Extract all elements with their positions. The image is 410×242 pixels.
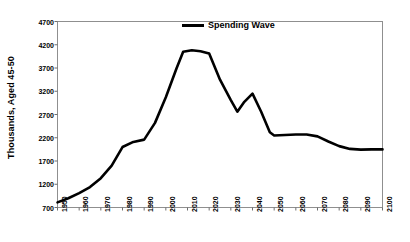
x-tick-label: 1960 xyxy=(82,196,89,212)
x-tick-label: 2100 xyxy=(386,196,393,212)
x-tick-label: 2040 xyxy=(256,196,263,212)
x-tick-label: 1980 xyxy=(126,196,133,212)
x-tick-label: 2020 xyxy=(212,196,219,212)
legend-label-spending-wave: Spending Wave xyxy=(208,21,275,30)
x-tick-label: 2050 xyxy=(277,196,284,212)
chart-container: Thousands, Aged 45-50 700120017002200270… xyxy=(0,0,410,242)
x-tick-label: 2000 xyxy=(169,196,176,212)
x-tick-label: 1970 xyxy=(104,196,111,212)
x-axis-tick-labels: 1950196019701980199020002010202020302040… xyxy=(0,0,410,242)
chart-legend: Spending Wave xyxy=(182,19,275,31)
x-tick-label: 1950 xyxy=(61,196,68,212)
x-tick-label: 2080 xyxy=(342,196,349,212)
x-tick-label: 2090 xyxy=(364,196,371,212)
x-tick-label: 2030 xyxy=(234,196,241,212)
x-tick-label: 2010 xyxy=(191,196,198,212)
x-tick-label: 2070 xyxy=(321,196,328,212)
legend-line-swatch xyxy=(182,24,204,27)
x-tick-label: 1990 xyxy=(147,196,154,212)
x-tick-label: 2060 xyxy=(299,196,306,212)
